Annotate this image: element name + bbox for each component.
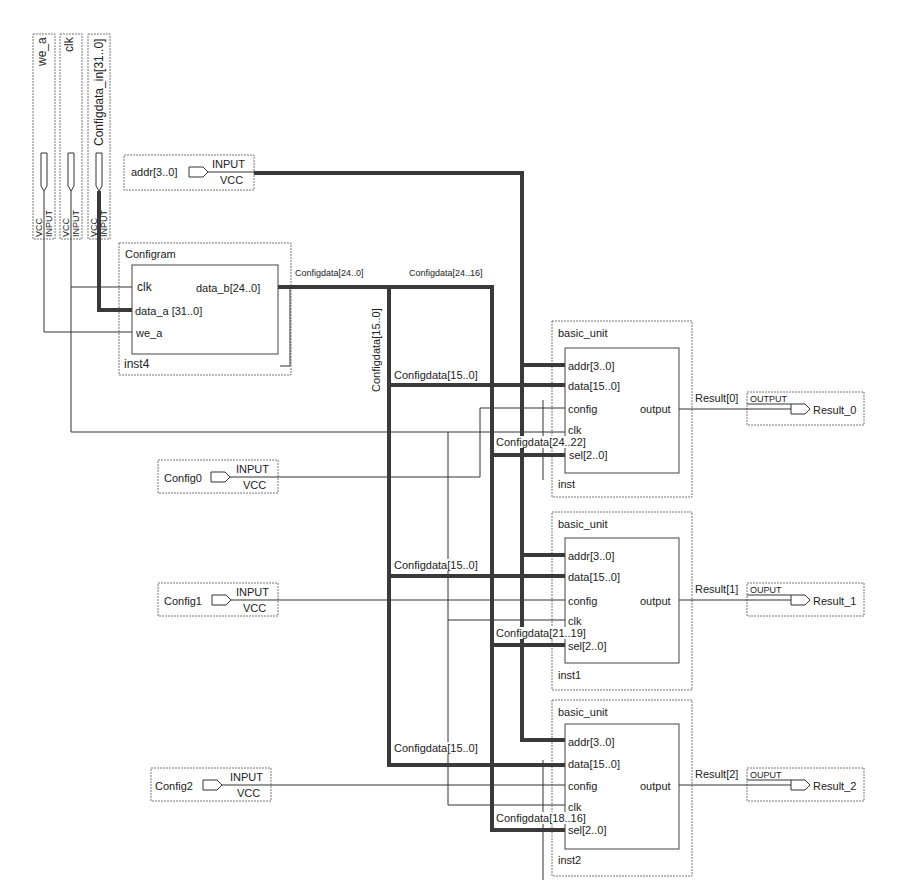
unit1-title: basic_unit	[558, 518, 608, 530]
unit2-port-clk: clk	[568, 801, 581, 813]
unit2-port-config: config	[568, 780, 597, 792]
unit1-port-sel: sel[2..0]	[568, 640, 607, 652]
bus-label-configdata-24-22: Configdata[24..22]	[496, 436, 586, 448]
bus-label-configdata-15-0-vertical: Configdata[15..0]	[370, 308, 382, 392]
unit2-port-sel: sel[2..0]	[568, 824, 607, 836]
unit2-result-wire: Result[2]	[695, 768, 738, 780]
bus-label-configdata-15-0-a: Configdata[15..0]	[394, 369, 478, 381]
result1-pin-type: OUPUT	[750, 585, 782, 595]
configram-port-we-a: we_a	[136, 327, 162, 339]
unit0-port-sel: sel[2..0]	[569, 449, 608, 461]
config1-pin-type: INPUT	[236, 586, 269, 598]
unit2-port-addr: addr[3..0]	[568, 736, 614, 748]
result2-pin-label: Result_2	[813, 780, 856, 792]
unit1-port-addr: addr[3..0]	[568, 550, 614, 562]
schematic-canvas	[0, 0, 899, 895]
config2-pin-label: Config2	[155, 780, 193, 792]
unit0-port-output: output	[640, 403, 671, 415]
result0-pin-type: OUTPUT	[750, 394, 787, 404]
unit1-port-config: config	[568, 595, 597, 607]
configdata-in-vcc: VCC	[89, 218, 99, 237]
config1-pin-label: Config1	[164, 595, 202, 607]
config0-pin-label: Config0	[164, 472, 202, 484]
unit0-port-data: data[15..0]	[568, 380, 620, 392]
bus-label-configdata-15-0-b: Configdata[15..0]	[394, 559, 478, 571]
bus-label-configdata-15-0-c: Configdata[15..0]	[394, 742, 478, 754]
unit2-port-data: data[15..0]	[568, 758, 620, 770]
configdata-in-input-type: INPUT	[99, 210, 109, 237]
configdata-in-pin-label: Configdata_in[31..0]	[93, 39, 106, 146]
bus-label-configdata-18-16: Configdata[18..16]	[496, 812, 586, 824]
result0-pin-label: Result_0	[813, 404, 856, 416]
result1-pin-label: Result_1	[813, 595, 856, 607]
configram-port-data-a: data_a [31..0]	[135, 305, 202, 317]
bus-label-configdata-24-16: Configdata[24..16]	[409, 268, 483, 278]
we-a-pin-label: we_a	[36, 37, 49, 66]
unit1-result-wire: Result[1]	[695, 583, 738, 595]
addr-pin-label: addr[3..0]	[131, 166, 177, 178]
clk-input-type: INPUT	[71, 210, 81, 237]
result2-pin-type: OUPUT	[750, 770, 782, 780]
unit0-port-config: config	[568, 403, 597, 415]
config1-pin-default: VCC	[243, 602, 266, 614]
unit1-instance: inst1	[558, 669, 581, 681]
unit0-port-clk: clk	[568, 424, 581, 436]
unit0-title: basic_unit	[558, 327, 608, 339]
unit1-port-data: data[15..0]	[568, 571, 620, 583]
config2-pin-type: INPUT	[230, 771, 263, 783]
unit0-port-addr: addr[3..0]	[568, 360, 614, 372]
config2-pin-default: VCC	[237, 787, 260, 799]
configram-port-data-b: data_b[24..0]	[196, 282, 260, 294]
unit2-port-output: output	[640, 780, 671, 792]
we-a-input-type: INPUT	[44, 210, 54, 237]
bus-label-configdata-24-0: Configdata[24..0]	[295, 268, 364, 278]
configram-instance: inst4	[124, 358, 149, 371]
bus-label-configdata-21-19: Configdata[21..19]	[496, 627, 586, 639]
we-a-vcc: VCC	[34, 218, 44, 237]
configram-port-clk: clk	[137, 281, 152, 294]
addr-pin-default: VCC	[220, 174, 243, 186]
configram-title: Configram	[125, 248, 176, 260]
config0-pin-type: INPUT	[236, 463, 269, 475]
unit2-title: basic_unit	[558, 706, 608, 718]
config0-pin-default: VCC	[243, 479, 266, 491]
clk-pin-label: clk	[63, 37, 76, 52]
unit1-port-clk: clk	[568, 615, 581, 627]
unit1-port-output: output	[640, 595, 671, 607]
clk-vcc: VCC	[61, 218, 71, 237]
unit0-result-wire: Result[0]	[695, 392, 738, 404]
addr-pin-type: INPUT	[212, 158, 245, 170]
unit0-instance: inst	[558, 478, 575, 490]
unit2-instance: inst2	[558, 854, 581, 866]
